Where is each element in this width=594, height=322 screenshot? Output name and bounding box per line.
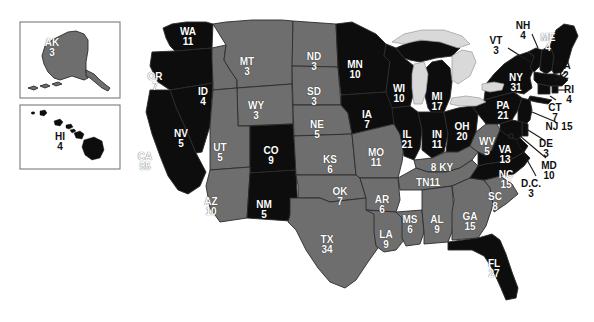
lake-erie xyxy=(450,96,486,106)
state-shape-AL[interactable] xyxy=(422,186,454,244)
state-shape-KS[interactable] xyxy=(294,134,356,175)
state-shape-AZ[interactable] xyxy=(206,167,250,222)
state-shape-CO[interactable] xyxy=(250,124,296,173)
state-shape-CT[interactable] xyxy=(538,84,550,94)
state-shape-DC[interactable] xyxy=(509,134,513,138)
hawaii-inset-box xyxy=(20,105,120,169)
state-shape-GA[interactable] xyxy=(452,178,494,240)
state-shape-PA[interactable] xyxy=(472,92,522,124)
state-shape-IN[interactable] xyxy=(418,112,448,158)
state-shape-SD[interactable] xyxy=(292,66,341,105)
state-shape-ME[interactable] xyxy=(550,24,578,74)
state-shape-OR[interactable] xyxy=(150,48,213,90)
state-shape-RI[interactable] xyxy=(552,86,558,93)
state-shape-AR[interactable] xyxy=(360,178,400,212)
electoral-map-figure: AK3HI4WA11OR7CA55NV5ID4MT3WY3UT5CO9AZ10N… xyxy=(0,0,594,322)
state-shape-TX[interactable] xyxy=(288,198,380,288)
state-shape-WY[interactable] xyxy=(237,84,293,126)
state-shape-FL[interactable] xyxy=(448,234,518,300)
state-shape-MI[interactable] xyxy=(424,60,452,116)
state-shape-DE[interactable] xyxy=(522,122,528,136)
state-shape-ND[interactable] xyxy=(292,21,338,67)
state-shape-NE[interactable] xyxy=(293,105,352,136)
state-shape-NY-li xyxy=(528,96,552,104)
lake-ontario xyxy=(482,82,504,92)
state-shape-MN[interactable] xyxy=(336,22,390,95)
state-shape-MO[interactable] xyxy=(352,124,404,178)
state-shape-WA[interactable] xyxy=(163,22,213,51)
us-electoral-map-svg xyxy=(0,0,594,322)
lake-huron xyxy=(452,50,476,84)
